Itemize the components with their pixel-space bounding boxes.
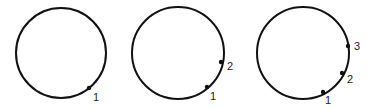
point-dot (205, 85, 209, 89)
point-dot (346, 44, 350, 48)
point-label: 1 (93, 91, 99, 103)
point-label: 1 (325, 94, 331, 106)
panel-3: 1 2 3 (257, 7, 360, 106)
panel-1: 1 (16, 8, 106, 103)
panel-2: 1 2 (132, 7, 233, 102)
point-dot (340, 71, 344, 75)
point-label: 1 (210, 90, 216, 102)
point-label: 3 (354, 40, 360, 52)
circle-points-diagram: 1 1 2 1 2 3 (0, 0, 378, 110)
point-label: 2 (347, 73, 353, 85)
circle (132, 7, 224, 99)
point-dot (219, 60, 223, 64)
circle (16, 8, 106, 98)
point-dot (87, 86, 91, 90)
circle (257, 7, 349, 99)
point-label: 2 (227, 60, 233, 72)
